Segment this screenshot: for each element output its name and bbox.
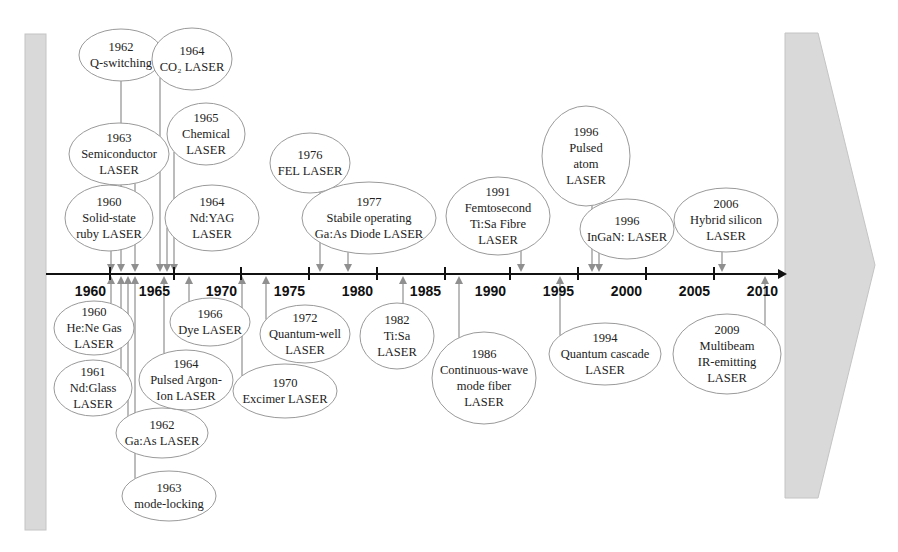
arrow-up-icon xyxy=(185,276,193,284)
event-label: InGaN: LASER xyxy=(587,230,668,244)
event-ellipse xyxy=(79,29,163,81)
arrow-up-icon xyxy=(399,276,407,284)
event-bubble: 1960He:Ne GasLASER xyxy=(54,301,134,355)
event-label: Solid-state xyxy=(82,211,136,225)
event-label: LASER xyxy=(707,371,747,385)
event-year: 1996 xyxy=(615,214,640,228)
event-label: LASER xyxy=(74,337,114,351)
event-label: Excimer LASER xyxy=(242,392,328,406)
event-label: Pulsed xyxy=(569,141,603,155)
event-bubble: 1972Quantum-wellLASER xyxy=(260,305,350,363)
event-bubble: 1970Excimer LASER xyxy=(233,364,337,418)
arrow-down-icon xyxy=(588,264,596,272)
event-label: LASER xyxy=(377,345,417,359)
event-ellipse xyxy=(170,298,250,346)
event-label: LASER xyxy=(192,227,232,241)
event-ellipse xyxy=(270,133,350,193)
event-bubble: 1994Quantum cascadeLASER xyxy=(549,323,661,385)
event-label: Femtosecond xyxy=(465,201,532,215)
axis-year-label: 2010 xyxy=(747,283,778,299)
event-label: Chemical xyxy=(182,127,230,141)
event-year: 1964 xyxy=(200,195,226,209)
event-ellipse xyxy=(152,28,232,90)
arrow-up-icon xyxy=(131,276,139,284)
arrow-down-icon xyxy=(117,264,125,272)
arrow-down-icon xyxy=(517,264,525,272)
event-label: Ga:As Diode LASER xyxy=(315,227,424,241)
axis-year-label: 1975 xyxy=(274,283,305,299)
event-label: CO₂ LASER xyxy=(160,60,225,74)
axis-year-label: 1970 xyxy=(206,283,237,299)
event-bubble: 1965ChemicalLASER xyxy=(167,103,245,165)
event-year: 1966 xyxy=(198,307,223,321)
event-bubble: 1963mode-locking xyxy=(122,471,216,521)
event-label: Pulsed Argon- xyxy=(150,373,222,387)
event-year: 2006 xyxy=(714,197,739,211)
event-year: 1962 xyxy=(150,418,175,432)
event-year: 1976 xyxy=(298,148,323,162)
event-bubble: 1964Nd:YAGLASER xyxy=(165,185,259,251)
event-label: Nd:YAG xyxy=(190,211,234,225)
event-bubble: 1976FEL LASER xyxy=(270,133,350,193)
event-year: 1986 xyxy=(472,347,497,361)
arrow-down-icon xyxy=(156,264,164,272)
event-label: Hybrid silicon xyxy=(690,213,763,227)
event-bubble: 1982Ti:SaLASER xyxy=(360,303,434,369)
arrow-down-icon xyxy=(718,264,726,272)
axis-year-label: 1995 xyxy=(543,283,574,299)
axis-year-label: 1980 xyxy=(342,283,373,299)
event-label: ruby LASER xyxy=(76,227,142,241)
arrow-up-icon xyxy=(124,276,132,284)
event-bubble: 1964CO₂ LASER xyxy=(152,28,232,90)
event-year: 1963 xyxy=(157,481,182,495)
event-label: LASER xyxy=(566,173,606,187)
axis-year-label: 2005 xyxy=(679,283,710,299)
event-ellipse xyxy=(233,364,337,418)
event-label: Ti:Sa xyxy=(384,329,411,343)
event-year: 1991 xyxy=(486,185,511,199)
event-year: 1964 xyxy=(180,44,206,58)
event-ellipse xyxy=(432,332,536,424)
event-label: Nd:Glass xyxy=(70,381,117,395)
laser-timeline-diagram: 1960196519701975198019851990199520002005… xyxy=(0,0,898,552)
event-label: Quantum-well xyxy=(269,327,342,341)
event-bubble: 1961Nd:GlassLASER xyxy=(54,360,132,416)
event-bubble: 1996PulsedatomLASER xyxy=(542,106,630,206)
axis-year-label: 1985 xyxy=(410,283,441,299)
event-label: Ti:Sa Fibre xyxy=(470,217,527,231)
event-year: 1970 xyxy=(273,376,298,390)
event-label: mode fiber xyxy=(457,379,512,393)
arrow-down-icon xyxy=(344,264,352,272)
event-bubble: 1996InGaN: LASER xyxy=(580,199,674,259)
event-label: Ion LASER xyxy=(156,389,216,403)
event-label: FEL LASER xyxy=(278,164,343,178)
event-label: Multibeam xyxy=(700,339,755,353)
event-bubble: 1966Dye LASER xyxy=(170,298,250,346)
event-label: Continuous-wave xyxy=(440,363,529,377)
event-label: LASER xyxy=(73,397,113,411)
axis-year-label: 1990 xyxy=(475,283,506,299)
event-label: LASER xyxy=(706,229,746,243)
event-label: atom xyxy=(574,157,599,171)
left-band xyxy=(25,34,46,530)
event-ellipse xyxy=(122,471,216,521)
event-bubble: 1960Solid-stateruby LASER xyxy=(65,185,153,251)
event-year: 1982 xyxy=(385,313,410,327)
event-label: Stabile operating xyxy=(326,211,412,225)
event-year: 1961 xyxy=(81,365,106,379)
event-year: 1964 xyxy=(174,357,200,371)
event-label: Dye LASER xyxy=(178,323,242,337)
event-bubble: 1962Q-switching xyxy=(79,29,163,81)
arrow-up-icon xyxy=(262,276,270,284)
event-label: LASER xyxy=(99,163,139,177)
arrow-up-icon xyxy=(455,276,463,284)
event-year: 1994 xyxy=(593,331,619,345)
event-label: Quantum cascade xyxy=(561,347,650,361)
event-year: 1965 xyxy=(194,111,219,125)
arrow-down-icon xyxy=(131,264,139,272)
arrow-down-icon xyxy=(595,264,603,272)
event-year: 1960 xyxy=(97,195,122,209)
event-year: 1962 xyxy=(109,40,134,54)
event-label: mode-locking xyxy=(134,497,204,511)
event-ellipse xyxy=(116,408,208,458)
